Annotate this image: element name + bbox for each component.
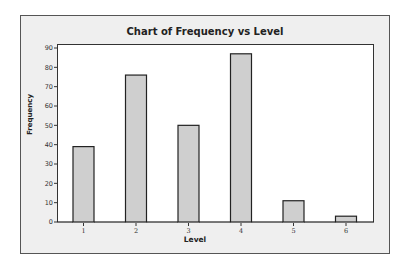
y-tick-label: 50	[45, 122, 53, 130]
bar-level-5	[283, 201, 304, 222]
x-tick-label: 1	[81, 227, 85, 235]
y-tick-label: 70	[45, 83, 53, 91]
x-tick-label: 6	[344, 227, 348, 235]
x-tick-label: 3	[186, 227, 190, 235]
y-tick-label: 80	[45, 64, 53, 72]
y-tick-label: 20	[45, 180, 53, 188]
x-tick-label: 2	[134, 227, 138, 235]
y-tick-label: 30	[45, 160, 53, 168]
bar-level-6	[336, 216, 357, 222]
bar-level-2	[126, 75, 147, 222]
x-tick-label: 4	[239, 227, 243, 235]
y-tick-label: 60	[45, 102, 53, 110]
bar-chart: 0102030405060708090123456	[0, 0, 407, 268]
y-tick-label: 40	[45, 141, 53, 149]
y-tick-label: 90	[45, 44, 53, 52]
bar-level-4	[231, 54, 252, 222]
y-tick-label: 10	[45, 199, 53, 207]
bar-level-1	[73, 147, 94, 222]
y-tick-label: 0	[49, 218, 53, 226]
x-tick-label: 5	[291, 227, 295, 235]
bar-level-3	[178, 125, 199, 222]
